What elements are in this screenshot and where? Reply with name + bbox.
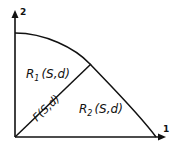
- bargaining-diagram: 2 1 R1(S,d) R2(S,d) F(S,d): [0, 0, 182, 152]
- x-axis-label: 1: [163, 124, 169, 134]
- svg-text:R1(S,d): R1(S,d): [26, 67, 70, 83]
- split-line-label: F(S,d): [30, 92, 62, 124]
- region-r1-label: R1(S,d): [26, 67, 70, 83]
- region-r2-label: R2(S,d): [79, 102, 123, 118]
- r1-name: R: [26, 67, 34, 81]
- y-axis-arrow-icon: [12, 10, 19, 18]
- r2-subscript: 2: [87, 109, 92, 118]
- r1-subscript: 1: [34, 74, 39, 83]
- svg-text:R2(S,d): R2(S,d): [79, 102, 123, 118]
- r2-args: (S,d): [94, 102, 122, 116]
- x-axis-arrow-icon: [158, 134, 166, 141]
- r2-name: R: [79, 102, 87, 116]
- r1-args: (S,d): [41, 67, 69, 81]
- y-axis-label: 2: [20, 7, 26, 17]
